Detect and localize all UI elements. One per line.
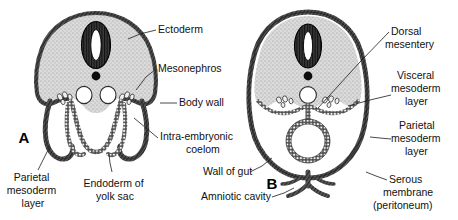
label-dorsal-mesentery: Dorsal mesentery	[385, 25, 435, 50]
label-parietal-mesoderm-layer-right: Parietal mesoderm layer	[391, 119, 444, 157]
label-body-wall: Body wall	[179, 96, 224, 108]
leader-serous-membrane	[366, 172, 387, 180]
label-amniotic-cavity: Amniotic cavity	[201, 190, 272, 202]
embryo-a-notochord	[92, 72, 101, 81]
leader-parietal-mesoderm-right	[370, 137, 391, 139]
label-parietal-mesoderm-layer-left: Parietal mesoderm layer	[7, 171, 60, 209]
label-wall-of-gut: Wall of gut	[203, 165, 252, 177]
embryo-b-gut	[286, 119, 330, 163]
leader-parietal-mesoderm-left	[38, 146, 50, 170]
embryology-figure: Ectoderm Mesonephros Body wall Intra-emb…	[0, 0, 458, 220]
embryo-b-neural-tube	[295, 24, 322, 68]
embryo-b-notochord	[304, 72, 313, 81]
panel-label-b: B	[267, 175, 278, 192]
label-visceral-mesoderm-layer: Visceral mesoderm layer	[391, 69, 444, 107]
label-intra-embryonic-coelom: Intra-embryonic coelom	[160, 130, 236, 155]
embryo-a-neural-tube	[82, 22, 111, 69]
panel-b-embryo	[249, 12, 367, 196]
label-endoderm-of-yolk-sac: Endoderm of yolk sac	[83, 177, 146, 202]
diagram-canvas: Ectoderm Mesonephros Body wall Intra-emb…	[0, 0, 458, 220]
panel-label-a: A	[19, 129, 30, 146]
embryo-b-dorsal-vesicle	[300, 87, 317, 104]
label-ectoderm: Ectoderm	[158, 23, 203, 35]
label-mesonephros: Mesonephros	[158, 62, 222, 74]
